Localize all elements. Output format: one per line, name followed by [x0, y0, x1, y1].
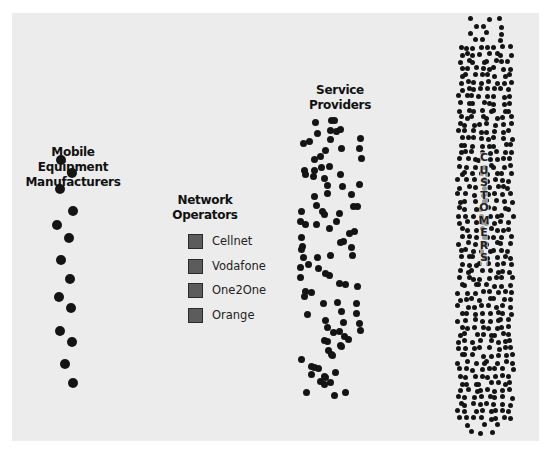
dot	[477, 345, 482, 350]
dot	[56, 255, 66, 265]
dot	[302, 171, 309, 178]
dot	[297, 264, 304, 271]
dot	[463, 191, 468, 196]
dot	[357, 327, 364, 334]
dot	[463, 149, 468, 154]
dot	[485, 94, 490, 99]
dot	[464, 177, 469, 182]
dot	[491, 248, 496, 253]
dot	[508, 44, 513, 49]
dot	[507, 338, 512, 343]
dot	[459, 114, 464, 119]
dot	[493, 374, 498, 379]
dot	[455, 361, 460, 366]
operator-swatch-icon	[188, 283, 203, 298]
dot	[471, 87, 476, 92]
customers-letter: S	[480, 252, 488, 265]
dot	[507, 72, 512, 77]
dot	[458, 388, 463, 393]
dot	[492, 86, 497, 91]
dot	[501, 331, 506, 336]
dot	[511, 214, 516, 219]
dot	[467, 184, 472, 189]
dot	[348, 244, 355, 251]
dot	[465, 423, 470, 428]
dot	[501, 136, 506, 141]
dot	[318, 164, 325, 171]
dot	[465, 219, 470, 224]
dot	[480, 144, 485, 149]
dot	[457, 275, 462, 280]
dot	[457, 205, 462, 210]
dot	[462, 409, 467, 414]
operator-vodafone: Vodafone	[188, 258, 266, 274]
dot	[500, 408, 505, 413]
operator-cellnet: Cellnet	[188, 233, 252, 249]
dot	[508, 403, 513, 408]
dot	[473, 291, 478, 296]
dot	[52, 220, 62, 230]
dot	[503, 150, 508, 155]
dot	[300, 140, 307, 147]
dot	[354, 203, 361, 210]
dot	[491, 296, 496, 301]
dot	[502, 199, 507, 204]
operators-heading: Network Operators	[168, 193, 242, 223]
dot	[492, 333, 497, 338]
dot	[492, 206, 497, 211]
dot	[54, 292, 64, 302]
dot	[469, 429, 474, 434]
dot	[463, 72, 468, 77]
dot	[470, 46, 475, 51]
dot	[506, 128, 511, 133]
dot	[353, 300, 360, 307]
dot	[312, 119, 319, 126]
dot	[455, 408, 460, 413]
dot	[495, 228, 500, 233]
dot	[506, 207, 511, 212]
operator-label: One2One	[212, 283, 266, 297]
dot	[499, 32, 504, 37]
operator-swatch-icon	[188, 308, 203, 323]
dot	[353, 310, 360, 317]
dot	[494, 275, 499, 280]
dot	[470, 101, 475, 106]
dot	[460, 262, 465, 267]
dot	[458, 100, 463, 105]
dot	[465, 291, 470, 296]
operator-orange: Orange	[188, 307, 255, 323]
dot	[334, 299, 341, 306]
dot	[500, 269, 505, 274]
dot	[487, 17, 492, 22]
dot	[65, 274, 75, 284]
dot	[506, 374, 511, 379]
dot	[460, 135, 465, 140]
dot	[499, 325, 504, 330]
operators-heading-line2: Operators	[168, 208, 242, 223]
dot	[509, 80, 514, 85]
dot	[508, 283, 513, 288]
dot	[356, 145, 363, 152]
dot	[492, 191, 497, 196]
dot	[481, 24, 486, 29]
dot	[297, 274, 304, 281]
dot	[487, 289, 492, 294]
dot	[495, 422, 500, 427]
operator-label: Orange	[212, 308, 255, 322]
dot	[479, 81, 484, 86]
dot	[456, 340, 461, 345]
dot	[495, 255, 500, 260]
dot	[504, 353, 509, 358]
dot	[475, 332, 480, 337]
dot	[504, 359, 509, 364]
dot	[472, 193, 477, 198]
dot	[506, 317, 511, 322]
dot	[354, 283, 361, 290]
customers-letter: O	[479, 202, 488, 215]
dot	[346, 230, 353, 237]
dot	[489, 338, 494, 343]
dot	[67, 168, 77, 178]
dot	[509, 171, 514, 176]
dot	[501, 228, 506, 233]
dot	[317, 378, 324, 385]
